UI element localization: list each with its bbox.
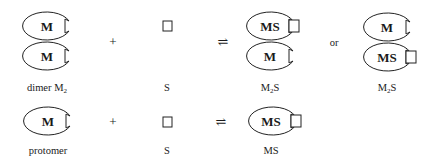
plus-sign: + [109, 34, 116, 49]
complex-ms: MS MS [249, 107, 301, 156]
substrate-square-icon [163, 117, 172, 127]
substrate-square-icon [163, 21, 172, 31]
protomer-label: MS [260, 19, 280, 34]
protomer-label: MS [261, 114, 281, 129]
protomer-label: M [381, 20, 393, 35]
protomer-label: MS [377, 50, 397, 65]
substrate-s: S [163, 117, 172, 156]
substrate-caption: S [164, 82, 170, 93]
complex-caption: M2S [378, 82, 397, 95]
protomer-m: M protomer [24, 107, 70, 156]
complex-caption: M2S [261, 82, 280, 95]
protomer-label: M [41, 49, 53, 64]
equilibrium-arrows-icon: ⇌ [216, 114, 227, 129]
complex-caption: MS [263, 145, 278, 156]
substrate-caption: S [164, 145, 170, 156]
complex-m2s-top-bound: MS M M2S [247, 12, 299, 95]
dimer-m2: M M dimer M2 [23, 12, 69, 95]
protomer-label: M [264, 49, 276, 64]
complex-m2s-bottom-bound: M MS M2S [364, 13, 416, 95]
protomer-label: M [41, 19, 53, 34]
protomer-label: M [42, 114, 54, 129]
protomer-caption: protomer [29, 145, 68, 156]
plus-sign: + [109, 114, 116, 129]
dimer-caption: dimer M2 [27, 82, 67, 95]
binding-diagram: M M dimer M2 + S ⇌ MS M M2S or M MS M2S … [0, 0, 433, 164]
equilibrium-arrows-icon: ⇌ [218, 34, 229, 49]
or-text: or [330, 37, 339, 48]
substrate-s: S [163, 21, 172, 93]
